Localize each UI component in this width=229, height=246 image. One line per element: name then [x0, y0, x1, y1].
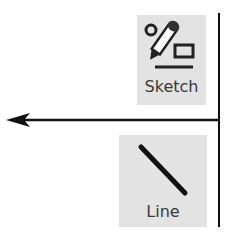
pencil-sketch-icon: [143, 19, 199, 71]
diagonal-line-icon: [137, 143, 191, 199]
line-button[interactable]: Line: [119, 135, 207, 227]
sketch-button[interactable]: Sketch: [137, 15, 206, 105]
line-label: Line: [119, 202, 207, 221]
sketch-label: Sketch: [137, 77, 206, 96]
left-arrow: [6, 112, 220, 128]
